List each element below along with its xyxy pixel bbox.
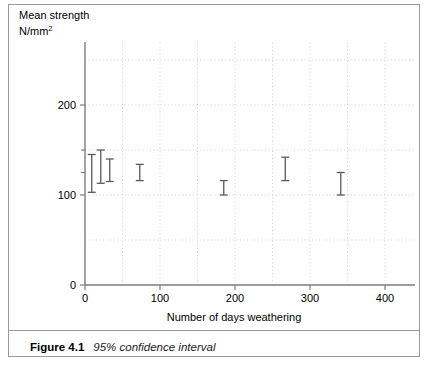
figure-container: 01002003004000100200 Number of days weat… <box>0 0 428 365</box>
x-axis-tick-label: 200 <box>226 292 244 304</box>
x-axis-tick-label: 0 <box>82 292 88 304</box>
caption-divider <box>9 330 419 331</box>
axis-layer <box>80 42 415 290</box>
figure-caption-text: 95% confidence interval <box>93 341 215 353</box>
y-axis-title-line1: Mean strength <box>19 9 89 21</box>
chart-canvas: 01002003004000100200 Number of days weat… <box>0 0 428 365</box>
error-bar <box>337 173 345 196</box>
figure-caption-label: Figure 4.1 <box>30 341 84 353</box>
error-bar <box>88 155 96 193</box>
data-point-layer <box>88 150 345 195</box>
error-bar <box>220 181 228 195</box>
y-axis-tick-label: 100 <box>58 189 76 201</box>
y-axis-title-line2: N/mm2 <box>19 24 53 37</box>
x-axis-title: Number of days weathering <box>167 311 302 323</box>
y-axis-unit-exponent: 2 <box>48 24 52 33</box>
y-axis-unit-base: N/mm <box>19 25 48 37</box>
error-bar <box>136 164 144 180</box>
y-axis-tick-label: 200 <box>58 99 76 111</box>
y-axis-tick-label: 0 <box>70 279 76 291</box>
x-axis-tick-label: 400 <box>376 292 394 304</box>
x-axis-tick-label: 300 <box>301 292 319 304</box>
error-bar <box>281 157 289 180</box>
x-axis-tick-label: 100 <box>151 292 169 304</box>
tick-label-layer: 01002003004000100200 <box>58 99 395 304</box>
figure-caption: Figure 4.195% confidence interval <box>30 337 410 355</box>
grid-layer <box>85 42 415 285</box>
error-bar <box>106 159 114 182</box>
error-bar <box>97 150 105 183</box>
